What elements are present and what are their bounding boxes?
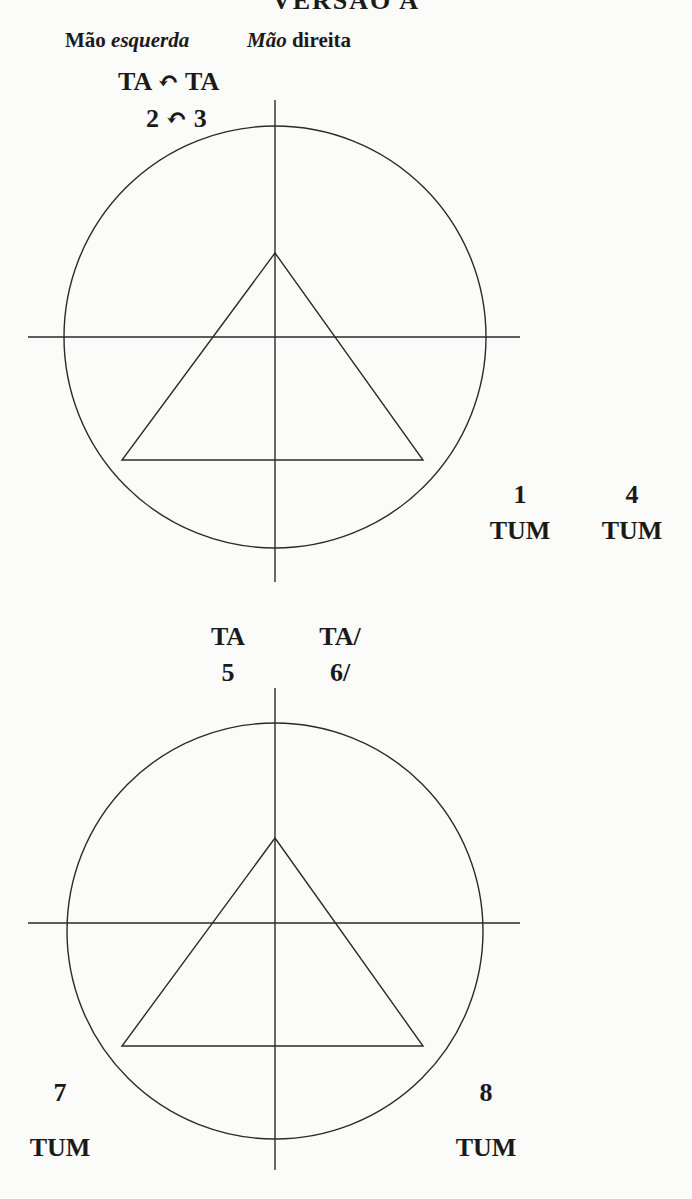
beat-5-number: 5 [198, 658, 258, 688]
beat-8-sound: TUM [450, 1133, 522, 1163]
beat-5-sound: TA [198, 622, 258, 652]
beat-6-number: 6/ [310, 658, 370, 688]
beat-7-sound: TUM [24, 1133, 96, 1163]
beat-1-number: 1 [500, 480, 540, 510]
beat-4-number: 4 [612, 480, 652, 510]
beat-8-number: 8 [466, 1078, 506, 1108]
diagram-top [28, 100, 520, 582]
triangle [122, 253, 423, 460]
beat-6-sound: TA/ [310, 622, 370, 652]
diagram-bottom [28, 688, 520, 1170]
triangle [122, 838, 423, 1046]
rhythm-diagrams [0, 0, 692, 1199]
beat-1-sound: TUM [484, 516, 556, 546]
beat-7-number: 7 [40, 1078, 80, 1108]
beat-4-sound: TUM [596, 516, 668, 546]
